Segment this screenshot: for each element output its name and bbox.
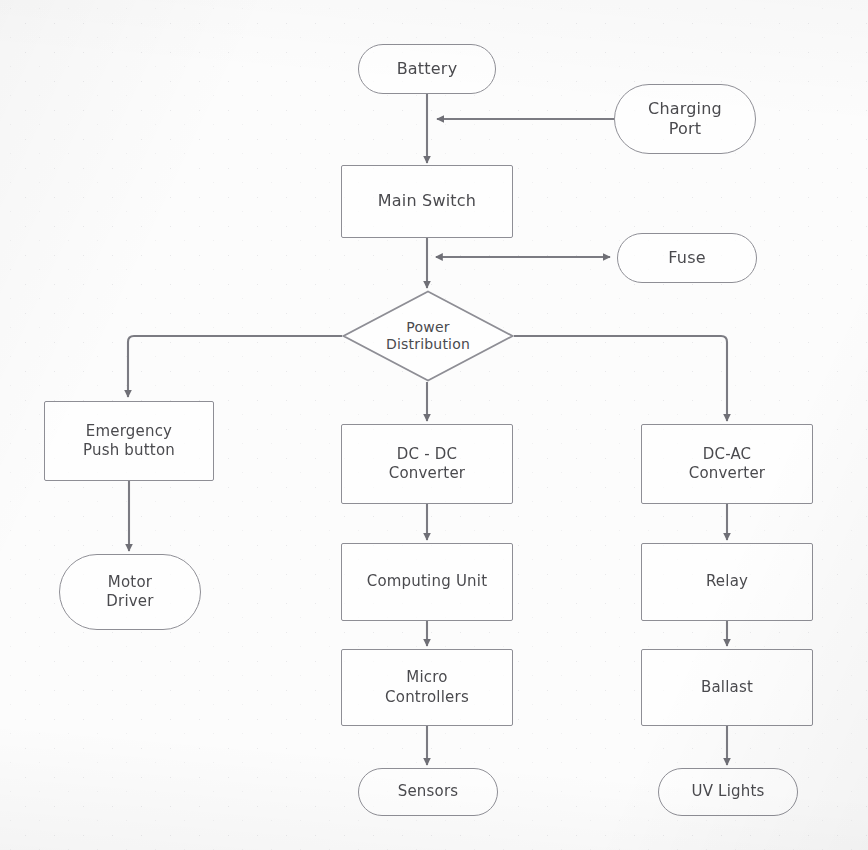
edge-power-distribution-emergency-push-button [128, 336, 342, 397]
node-micro-controllers[interactable]: MicroControllers [341, 649, 513, 726]
node-battery-label: Battery [391, 59, 464, 79]
node-computing-unit-label: Computing Unit [361, 572, 493, 591]
node-motor-driver[interactable]: MotorDriver [59, 554, 201, 630]
node-emergency-push-button[interactable]: EmergencyPush button [44, 401, 214, 481]
node-main-switch[interactable]: Main Switch [341, 165, 513, 238]
node-charging-port[interactable]: ChargingPort [614, 84, 756, 154]
node-dcac-converter[interactable]: DC-ACConverter [641, 424, 813, 504]
edge-power-distribution-dcac [514, 336, 727, 421]
node-main-switch-label: Main Switch [372, 191, 482, 211]
node-fuse[interactable]: Fuse [617, 233, 757, 283]
node-dcdc-converter[interactable]: DC - DCConverter [341, 424, 513, 504]
node-ballast[interactable]: Ballast [641, 649, 813, 726]
node-power-distribution-label: PowerDistribution [386, 319, 470, 354]
node-charging-port-label: ChargingPort [642, 99, 728, 140]
node-uv-lights-label: UV Lights [685, 782, 770, 801]
node-uv-lights[interactable]: UV Lights [658, 768, 798, 816]
node-dcdc-converter-label: DC - DCConverter [383, 445, 472, 483]
node-ballast-label: Ballast [695, 678, 759, 697]
node-fuse-label: Fuse [662, 248, 711, 268]
node-micro-controllers-label: MicroControllers [379, 668, 475, 706]
node-sensors[interactable]: Sensors [358, 768, 498, 816]
node-sensors-label: Sensors [392, 782, 465, 801]
node-emergency-push-button-label: EmergencyPush button [77, 422, 181, 460]
node-computing-unit[interactable]: Computing Unit [341, 543, 513, 621]
node-motor-driver-label: MotorDriver [100, 573, 159, 611]
node-relay[interactable]: Relay [641, 543, 813, 621]
node-relay-label: Relay [700, 572, 754, 591]
node-battery[interactable]: Battery [358, 44, 496, 94]
node-dcac-converter-label: DC-ACConverter [683, 445, 772, 483]
node-power-distribution[interactable]: PowerDistribution [342, 290, 514, 382]
